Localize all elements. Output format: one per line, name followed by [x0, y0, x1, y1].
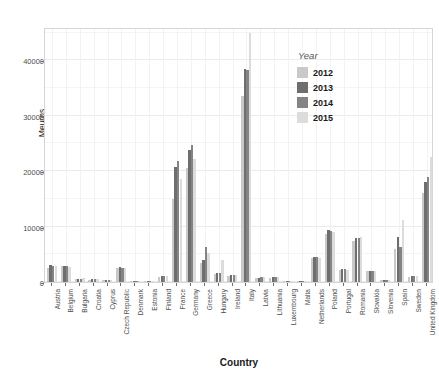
legend-item[interactable]: 2012: [297, 65, 377, 80]
bar: [360, 237, 362, 282]
y-axis-ticks: 010000200003000040000: [0, 0, 44, 384]
legend-item-label: 2014: [313, 98, 333, 108]
bar: [221, 260, 223, 282]
bar: [138, 281, 140, 282]
x-tick-mark: [65, 283, 66, 286]
x-tick-mark: [329, 283, 330, 286]
bar: [96, 279, 98, 282]
x-tick-label: Slovakia: [373, 289, 380, 314]
bar: [277, 277, 279, 282]
x-tick-mark: [370, 283, 371, 286]
legend-item[interactable]: 2014: [297, 95, 377, 110]
bar: [235, 275, 237, 282]
x-tick-mark: [315, 283, 316, 286]
x-tick-mark: [301, 283, 302, 286]
x-tick-label: Austria: [54, 289, 61, 309]
bar: [388, 280, 390, 282]
bar: [402, 220, 404, 282]
bar-group: [186, 29, 196, 282]
x-tick-label: Finland: [165, 289, 172, 310]
x-tick-mark: [162, 283, 163, 286]
x-tick-label: Poland: [331, 289, 338, 309]
legend-item[interactable]: 2013: [297, 80, 377, 95]
bar-group: [200, 29, 210, 282]
x-tick-label: Latvia: [262, 289, 269, 306]
bar-group: [227, 29, 237, 282]
x-tick-label: Germany: [192, 289, 199, 316]
bar: [152, 281, 154, 282]
y-tick-label: 10000: [10, 223, 44, 232]
x-tick-mark: [232, 283, 233, 286]
x-tick-mark: [218, 283, 219, 286]
x-tick-mark: [259, 283, 260, 286]
bar-group: [380, 29, 390, 282]
bar-group: [61, 29, 71, 282]
x-tick-label: Hungary: [220, 289, 227, 314]
bar-group: [172, 29, 182, 282]
bar: [180, 179, 182, 282]
x-tick-label: Estonia: [151, 289, 158, 311]
x-tick-mark: [384, 283, 385, 286]
x-tick-label: Cyprus: [109, 289, 116, 310]
bar: [346, 270, 348, 282]
bar-group: [116, 29, 126, 282]
bar: [374, 271, 376, 282]
bar-group: [283, 29, 293, 282]
x-tick-label: Denmark: [137, 289, 144, 315]
x-tick-label: Malta: [304, 289, 311, 305]
x-axis-ticks: AustriaBelgiumBulgariaCroatiaCyprusCzech…: [44, 283, 433, 358]
x-tick-label: Netherlands: [318, 289, 325, 324]
x-tick-mark: [412, 283, 413, 286]
bar-group: [144, 29, 154, 282]
legend-items: 2012201320142015: [297, 65, 377, 125]
x-tick-label: Lithuania: [276, 289, 283, 315]
legend-item-label: 2012: [313, 68, 333, 78]
bar: [263, 277, 265, 282]
x-tick-label: Czech Republic: [123, 289, 130, 335]
x-tick-mark: [51, 283, 52, 286]
bar: [291, 281, 293, 282]
legend-swatch-icon: [297, 112, 308, 123]
x-tick-mark: [93, 283, 94, 286]
legend: Year 2012201320142015: [297, 50, 377, 125]
x-tick-label: Spain: [401, 289, 408, 306]
legend-item-label: 2015: [313, 113, 333, 123]
x-tick-mark: [204, 283, 205, 286]
x-tick-mark: [176, 283, 177, 286]
x-tick-label: Italy: [248, 289, 255, 301]
x-tick-mark: [148, 283, 149, 286]
bar-group: [75, 29, 85, 282]
x-tick-mark: [357, 283, 358, 286]
legend-title: Year: [297, 50, 377, 61]
bar-group: [241, 29, 251, 282]
x-tick-mark: [287, 283, 288, 286]
y-tick-label: 0: [10, 279, 44, 288]
legend-swatch-icon: [297, 82, 308, 93]
bar: [82, 278, 84, 282]
bar-group: [130, 29, 140, 282]
bar: [55, 266, 57, 282]
bar: [318, 258, 320, 282]
x-axis-title: Country: [44, 357, 434, 368]
x-tick-label: Romania: [359, 289, 366, 315]
x-tick-mark: [107, 283, 108, 286]
x-tick-label: Sweden: [415, 289, 422, 313]
bar-group: [214, 29, 224, 282]
y-tick-label: 40000: [10, 57, 44, 66]
bar-group: [269, 29, 279, 282]
x-tick-label: Croatia: [95, 289, 102, 310]
bar: [207, 253, 209, 282]
legend-item[interactable]: 2015: [297, 110, 377, 125]
x-tick-mark: [426, 283, 427, 286]
x-tick-label: Portugal: [345, 289, 352, 313]
bar: [68, 267, 70, 282]
bar-group: [394, 29, 404, 282]
bar-group: [255, 29, 265, 282]
x-tick-mark: [343, 283, 344, 286]
bar-group: [102, 29, 112, 282]
bar-group: [47, 29, 57, 282]
x-tick-label: Slovenia: [387, 289, 394, 314]
x-tick-label: France: [179, 289, 186, 309]
y-tick-label: 20000: [10, 168, 44, 177]
bar: [124, 268, 126, 282]
